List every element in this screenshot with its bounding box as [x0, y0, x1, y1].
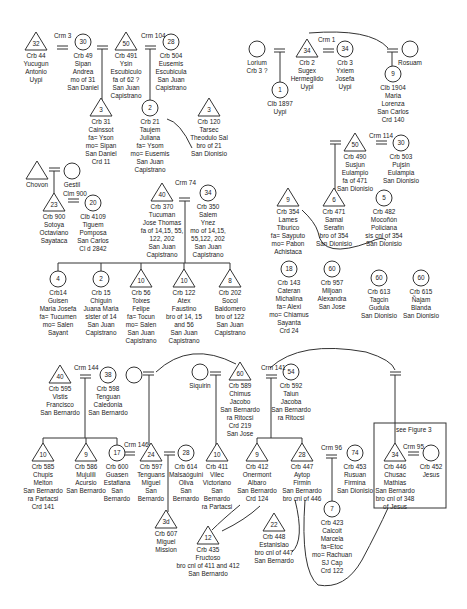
person-label: Crb 202 Socol Baldomero bro of 122 San J… [215, 289, 246, 337]
person-age: 34 [204, 189, 211, 197]
person-age: 10 [39, 451, 46, 459]
person-label: Crb 491 Ysin Escubiculo fa of 62 ? San J… [111, 52, 142, 100]
person-label: Crb 3 Yxiem Josefa Uypi [336, 59, 355, 91]
person-age: 2 [99, 275, 103, 283]
person-label: Crb 613 Tagcin Gudula San Dionisio [361, 288, 397, 320]
female-circle-icon [192, 364, 208, 380]
female-circle-icon [126, 367, 142, 383]
person-label: Crb 586 Mujulili Acursio San Bernardo [66, 463, 105, 495]
person-label: Crb 957 Miljoan Alexandra San Jose [318, 279, 347, 311]
person-age: 2 [148, 104, 152, 112]
person-label: Crb 900 Sotoya Octaviano Sayataca [40, 213, 69, 245]
marriage-label: Crm 114 [369, 132, 393, 140]
person-label: Crb 44 Yucugun Antonio Uypi [24, 52, 49, 84]
person-label: Crb 435 Fructoso bro cnl of 411 and 412 … [176, 546, 239, 578]
person-age: 50 [351, 141, 358, 149]
female-circle-icon [402, 41, 418, 57]
marriage-label: Crm 141 [261, 364, 286, 372]
person-age: 22 [270, 521, 277, 529]
person-age: 34 [303, 47, 310, 55]
person-age: 9 [286, 196, 290, 204]
person-label: Crb14 Guisen Maria Josefa fa= Tucumen mo… [39, 289, 76, 337]
person-age: 24 [147, 451, 154, 459]
person-label: Crb 471 Samal Serafin bro of 354 San Dio… [316, 208, 352, 248]
female-circle-icon [64, 163, 80, 179]
person-label: Crb 504 Eusemis Escubicula San Juan Capi… [156, 52, 187, 92]
person-label: Crb 448 Estanislao bro cnl of 447 San Be… [254, 533, 293, 565]
person-label: Gestil [64, 181, 80, 189]
person-age: 6 [332, 196, 336, 204]
person-age: 10 [137, 277, 144, 285]
person-label: Crb 453 Rusuan Firmina San Dionisio [337, 463, 373, 495]
person-label: Crb 31 Cainssot fa= Yson mo= Sipan San D… [85, 118, 116, 166]
person-age: 28 [167, 38, 174, 46]
marriage-label: Crm 96 [321, 444, 342, 452]
marriage-label: Crm 74 [175, 179, 196, 187]
person-age: 23 [50, 201, 57, 209]
person-label: Crb 56 Toixes Felipe fa= Tocun mo= Salen… [126, 289, 157, 345]
person-label: Crb 615 Ñajam Blanda San Dionisio [403, 288, 439, 320]
person-label: Crb 447 Aytop Firmin San Bernardo bro cn… [282, 463, 321, 503]
person-label: Crb 120 Tarsec Theodulo Sal bro of 21 Sa… [190, 118, 228, 158]
person-label: Lorium Crb 3 ? [247, 59, 268, 75]
person-age: 3 [207, 106, 211, 114]
marriage-label: Crm 144 [74, 364, 99, 372]
person-label: Crb 600 Guasen Estafiana San Bernardo [104, 463, 131, 503]
person-label: Clb 1904 Maria Lorenza San Carlos Crd 14… [377, 84, 409, 124]
person-label: Crb 592 Taiun Jacoba San Bernardo ra Rit… [271, 382, 310, 422]
marriage-label: Crm 146 [124, 441, 149, 449]
person-age: 9 [84, 451, 88, 459]
person-label: Crb 354 Lames Tiburico fa= Sayputo mo= P… [271, 208, 305, 256]
person-age: 3 [99, 106, 103, 114]
female-circle-icon [249, 41, 265, 57]
person-age: 60 [417, 274, 424, 282]
person-age: 9 [255, 451, 259, 459]
person-age: 8 [228, 277, 232, 285]
person-age: 9 [391, 70, 395, 78]
marriage-label: Crm 1 [318, 36, 335, 44]
person-age: 7 [330, 505, 334, 513]
person-label: Crb 589 Chimus Jacobo San Bernardo ra Ri… [220, 382, 259, 438]
person-age: 40 [56, 373, 63, 381]
person-label: Crb 597 Tenguans Miguel San Bernardo [137, 463, 165, 503]
person-label: Chovon [26, 181, 48, 189]
person-age: 60 [236, 370, 243, 378]
person-age: 3d [162, 518, 169, 526]
female-circle-icon [423, 445, 439, 461]
person-age: 60 [375, 274, 382, 282]
person-age: 40 [158, 191, 165, 199]
person-label: Crb 503 Pujsin Eulampia San Dionisio [383, 153, 419, 185]
person-age: 34 [341, 45, 348, 53]
marriage-label: Crm 104 [141, 32, 166, 40]
person-label: Crb 49 Sipan Andrea mo of 31 San Daniel [67, 52, 98, 92]
person-label: Crb 411 Vilec Victoriano San Bernardo ra… [202, 463, 233, 511]
marriage-label: Crm 3 [54, 32, 71, 40]
person-age: 60 [328, 265, 335, 273]
person-label: Crb 446 Chusac Mathias San Bernardo bro … [375, 463, 414, 511]
person-label: Crb 412 Onermont Albaro San Bernardo Crd… [237, 463, 276, 503]
person-label: Crb 423 Calcoit Marcela fa=Etoc mo= Rach… [312, 519, 352, 575]
person-label: Crb 350 Salem Ynez mo of 14,15, 55,122, … [190, 203, 226, 259]
person-label: Clb 1897 Uypi [267, 100, 293, 116]
person-age: 32 [32, 40, 39, 48]
person-age: 28 [182, 449, 189, 457]
marriage-label: Crm 95 [403, 443, 424, 451]
person-label: Clb 4109 Tiguem Pomposa San Carlos Cl d … [77, 213, 109, 253]
person-age: 18 [285, 265, 292, 273]
person-age: 17 [113, 449, 120, 457]
person-age: 20 [89, 199, 96, 207]
person-label: Siquirin [189, 382, 210, 390]
person-label: Crb 598 Tenguan Caledonia San Bernardo [88, 385, 127, 417]
person-age: 30 [397, 139, 404, 147]
person-age: 28 [298, 451, 305, 459]
person-label: Crb 370 Tucuman Jose Thomas fa of 14,15,… [141, 203, 184, 259]
person-label: Crb 482 Mocoñón Policiana sis cnl of 354… [365, 208, 402, 248]
person-age: 10 [213, 451, 220, 459]
person-label: Crb 595 Vistis Francisco San Bernardo [40, 385, 79, 417]
person-age: 74 [351, 449, 358, 457]
person-age: 34 [391, 451, 398, 459]
person-age: 10 [180, 277, 187, 285]
person-age: 12 [204, 534, 211, 542]
person-label: Rosuam [398, 59, 422, 67]
person-label: Crb 607 Miguel Mission [155, 530, 178, 554]
